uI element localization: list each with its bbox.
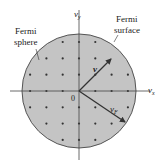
- fermi-sphere-label-line2: sphere: [14, 37, 38, 47]
- fermi-surface-label-line1: Fermi: [116, 14, 138, 24]
- fermi-surface-leader: [114, 35, 118, 42]
- fermi-sphere-label-line1: Fermi: [15, 26, 37, 36]
- y-axis-label: vy: [74, 9, 81, 20]
- fermi-surface-label-line2: surface: [114, 25, 140, 35]
- origin-label: 0: [71, 94, 75, 103]
- x-axis-label: vx: [148, 85, 155, 96]
- fermi-sphere-diagram: Fermi sphere Fermi surface vy vx 0 v vF: [0, 0, 165, 166]
